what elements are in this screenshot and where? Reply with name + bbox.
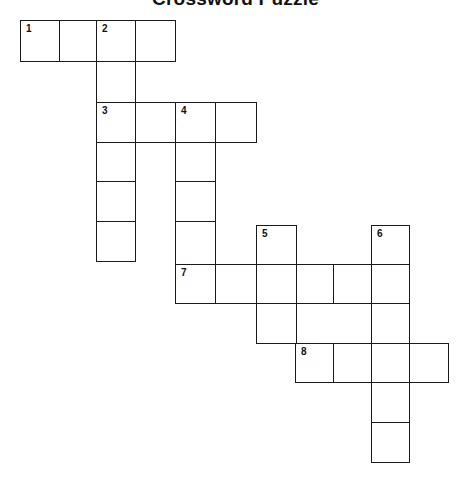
clue-number: 6: [377, 229, 383, 239]
crossword-cell[interactable]: [96, 142, 136, 182]
crossword-grid: 12345678: [0, 0, 471, 487]
crossword-cell-1[interactable]: 1: [20, 20, 60, 62]
clue-number: 7: [181, 268, 187, 278]
crossword-cell-7[interactable]: 7: [175, 264, 216, 304]
clue-number: 8: [301, 347, 307, 357]
crossword-cell[interactable]: [175, 181, 216, 222]
crossword-cell-2[interactable]: 2: [96, 20, 136, 62]
crossword-cell[interactable]: [215, 102, 257, 143]
clue-number: 3: [102, 106, 108, 116]
clue-number: 2: [102, 24, 108, 34]
clue-number: 1: [26, 24, 32, 34]
crossword-cell[interactable]: [135, 20, 176, 62]
clue-number: 4: [181, 106, 187, 116]
crossword-cell[interactable]: [96, 61, 136, 103]
crossword-cell[interactable]: [256, 264, 297, 304]
crossword-cell[interactable]: [333, 343, 372, 383]
crossword-cell[interactable]: [371, 343, 410, 383]
crossword-cell-5[interactable]: 5: [256, 225, 297, 265]
crossword-cell[interactable]: [175, 142, 216, 182]
crossword-cell-6[interactable]: 6: [371, 225, 410, 265]
crossword-cell[interactable]: [256, 303, 297, 344]
crossword-cell[interactable]: [175, 221, 216, 265]
crossword-cell[interactable]: [96, 181, 136, 222]
crossword-cell[interactable]: [409, 343, 449, 383]
crossword-cell[interactable]: [371, 422, 410, 463]
clue-number: 5: [262, 229, 268, 239]
crossword-cell[interactable]: [371, 382, 410, 423]
crossword-cell[interactable]: [215, 264, 257, 304]
crossword-cell[interactable]: [371, 264, 410, 304]
crossword-cell[interactable]: [371, 303, 410, 344]
crossword-cell-8[interactable]: 8: [295, 343, 334, 383]
crossword-cell[interactable]: [296, 264, 334, 304]
crossword-cell[interactable]: [96, 221, 136, 262]
crossword-cell[interactable]: [135, 102, 176, 143]
crossword-cell-4[interactable]: 4: [175, 102, 216, 143]
crossword-cell[interactable]: [333, 264, 372, 304]
crossword-cell-3[interactable]: 3: [96, 102, 136, 143]
crossword-cell[interactable]: [59, 20, 97, 62]
